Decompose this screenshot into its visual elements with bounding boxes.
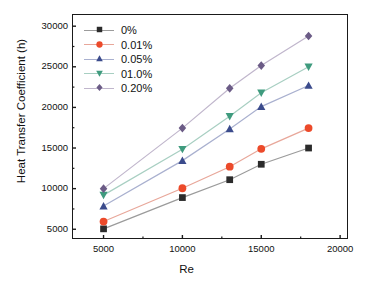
legend-item[interactable]: 0% xyxy=(84,23,152,38)
chart-figure: Heat Transfer Coefficient (h) Re 5000100… xyxy=(0,0,373,287)
legend-label: 0% xyxy=(121,24,137,36)
chart-legend: 0%0.01%0.05%01.0%0.20% xyxy=(84,23,152,96)
legend-marker-icon xyxy=(84,82,114,94)
series-1 xyxy=(100,124,313,225)
legend-item[interactable]: 0.20% xyxy=(84,81,152,96)
legend-label: 0.05% xyxy=(121,53,152,65)
legend-marker-icon xyxy=(84,39,114,51)
legend-label: 01.0% xyxy=(121,68,152,80)
series-2 xyxy=(99,81,312,209)
legend-marker-icon xyxy=(84,68,114,80)
legend-label: 0.20% xyxy=(121,82,152,94)
legend-marker-icon xyxy=(84,53,114,65)
series-0 xyxy=(100,145,312,233)
legend-item[interactable]: 0.01% xyxy=(84,38,152,53)
legend-marker-icon xyxy=(84,24,114,36)
legend-item[interactable]: 0.05% xyxy=(84,52,152,67)
legend-label: 0.01% xyxy=(121,39,152,51)
plot-canvas xyxy=(0,0,373,287)
legend-item[interactable]: 01.0% xyxy=(84,67,152,82)
